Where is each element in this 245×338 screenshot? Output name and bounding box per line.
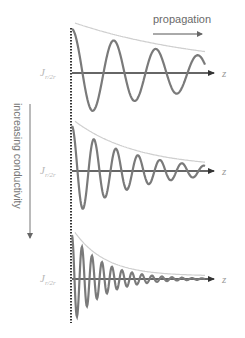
z-axis-label: z — [221, 67, 227, 79]
current-density-wave — [72, 126, 205, 209]
propagation-label: propagation — [153, 13, 211, 25]
wave-panel-medium-conductivity: zJr/2r — [40, 121, 227, 208]
conductivity-label: increasing conductivity — [12, 103, 24, 209]
current-density-label: Jr/2r — [40, 164, 56, 179]
current-density-wave — [72, 235, 205, 317]
current-density-wave — [72, 29, 205, 111]
current-density-label: Jr/2r — [40, 66, 56, 81]
skin-effect-diagram: propagation increasing conductivity zJr/… — [0, 0, 245, 338]
wave-panel-low-conductivity: zJr/2r — [40, 23, 227, 111]
z-axis-label: z — [221, 273, 227, 285]
wave-panel-high-conductivity: zJr/2r — [40, 232, 227, 316]
z-axis-label: z — [221, 165, 227, 177]
current-density-label: Jr/2r — [40, 272, 56, 287]
decay-envelope — [75, 23, 205, 52]
